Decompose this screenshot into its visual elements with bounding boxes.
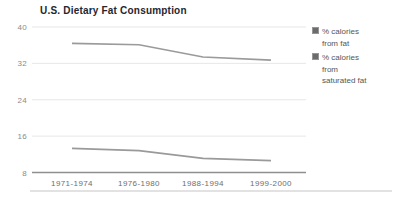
legend: % caloriesfrom fat% caloriesfromsaturate… [313, 26, 366, 90]
legend-label: % caloriesfromsaturated fat [322, 52, 366, 87]
legend-swatch-icon [313, 54, 318, 59]
legend-item-1: % caloriesfrom fat [313, 26, 366, 49]
x-tick-label-1: 1971-1974 [51, 179, 93, 188]
series-line-1 [72, 43, 271, 60]
chart-bottom-shadow [30, 190, 392, 192]
x-tick-label-3: 1988-1994 [182, 179, 224, 188]
x-tick-label-2: 1976-1980 [118, 179, 160, 188]
x-tick-label-4: 1999-2000 [250, 179, 292, 188]
y-tick-label-16: 16 [0, 132, 27, 141]
series-line-2 [72, 148, 271, 160]
legend-item-2: % caloriesfromsaturated fat [313, 52, 366, 87]
legend-label: % caloriesfrom fat [322, 26, 359, 49]
y-tick-label-24: 24 [0, 95, 27, 104]
y-tick-label-8: 8 [0, 168, 27, 177]
legend-swatch-icon [313, 28, 318, 33]
chart: U.S. Dietary Fat Consumption 816243240 1… [0, 0, 394, 206]
y-tick-label-40: 40 [0, 23, 27, 32]
y-tick-label-32: 32 [0, 59, 27, 68]
